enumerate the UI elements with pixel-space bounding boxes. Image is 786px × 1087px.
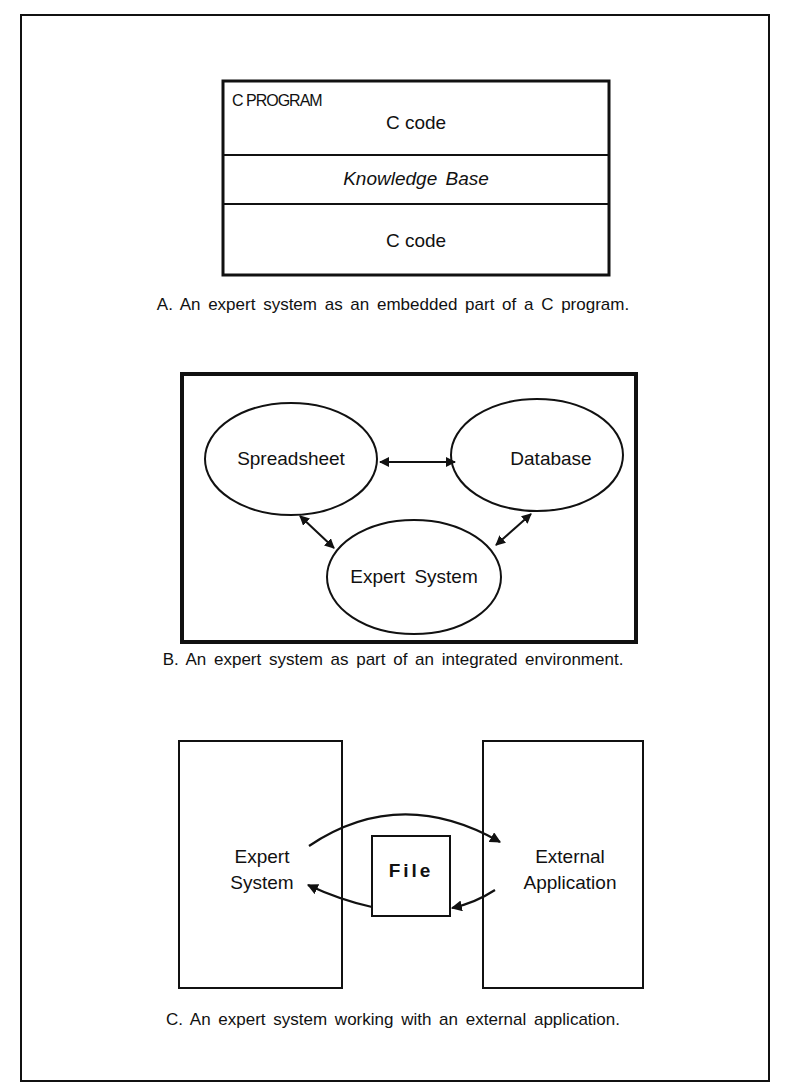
- knowledge-base-label: Knowledge Base: [223, 168, 609, 190]
- c-program-label: C PROGRAM: [232, 92, 322, 110]
- expert-label-line1: Expert: [200, 846, 324, 868]
- caption-b: B. An expert system as part of an integr…: [0, 650, 786, 670]
- c-code-top-label: C code: [223, 112, 609, 134]
- file-label: File: [372, 860, 450, 882]
- expert-system-node-label: Expert System: [327, 566, 501, 588]
- spreadsheet-node-label: Spreadsheet: [205, 448, 377, 470]
- caption-c: C. An expert system working with an exte…: [0, 1010, 786, 1030]
- figure-graphics: [0, 0, 786, 1087]
- arrow-external-to-file: [452, 890, 495, 908]
- external-label-line1: External: [500, 846, 640, 868]
- panel-b-diagram: [182, 374, 636, 642]
- database-node-label: Database: [465, 448, 637, 470]
- caption-a: A. An expert system as an embedded part …: [0, 295, 786, 315]
- arrow-database-expert: [496, 514, 531, 545]
- c-code-bottom-label: C code: [223, 230, 609, 252]
- application-label-line2: Application: [500, 872, 640, 894]
- arrow-spreadsheet-expert: [300, 516, 334, 548]
- system-label-line2: System: [200, 872, 324, 894]
